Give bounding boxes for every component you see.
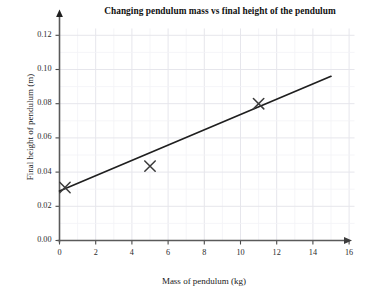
y-axis-arrow-icon — [56, 10, 63, 18]
x-axis-title: Mass of pendulum (kg) — [59, 276, 349, 286]
x-tick-label: 12 — [265, 248, 289, 257]
x-tick-label: 2 — [84, 248, 108, 257]
x-tick-label: 4 — [120, 248, 144, 257]
y-tick-label: 0.00 — [18, 235, 52, 244]
axis-ticks — [56, 35, 350, 244]
trend-line — [60, 76, 332, 191]
x-tick-label: 16 — [337, 248, 361, 257]
x-tick-label: 6 — [156, 248, 180, 257]
y-axis-title: Final height of pendulum (m) — [25, 37, 35, 217]
x-tick-label: 0 — [48, 248, 72, 257]
x-tick-label: 8 — [192, 248, 216, 257]
x-tick-label: 10 — [229, 248, 253, 257]
chart-container: Changing pendulum mass vs final height o… — [0, 0, 377, 298]
x-tick-label: 14 — [301, 248, 325, 257]
gridlines — [60, 28, 355, 240]
x-axis-arrow-icon — [344, 237, 352, 244]
